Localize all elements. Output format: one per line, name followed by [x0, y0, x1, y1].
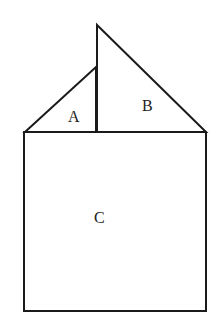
- triangle-a: [25, 67, 96, 132]
- label-a: A: [68, 108, 80, 125]
- square-c: [24, 132, 206, 311]
- triangle-b: [97, 25, 206, 132]
- geometry-diagram: A B C: [0, 0, 214, 320]
- label-b: B: [142, 97, 153, 114]
- label-c: C: [94, 209, 105, 226]
